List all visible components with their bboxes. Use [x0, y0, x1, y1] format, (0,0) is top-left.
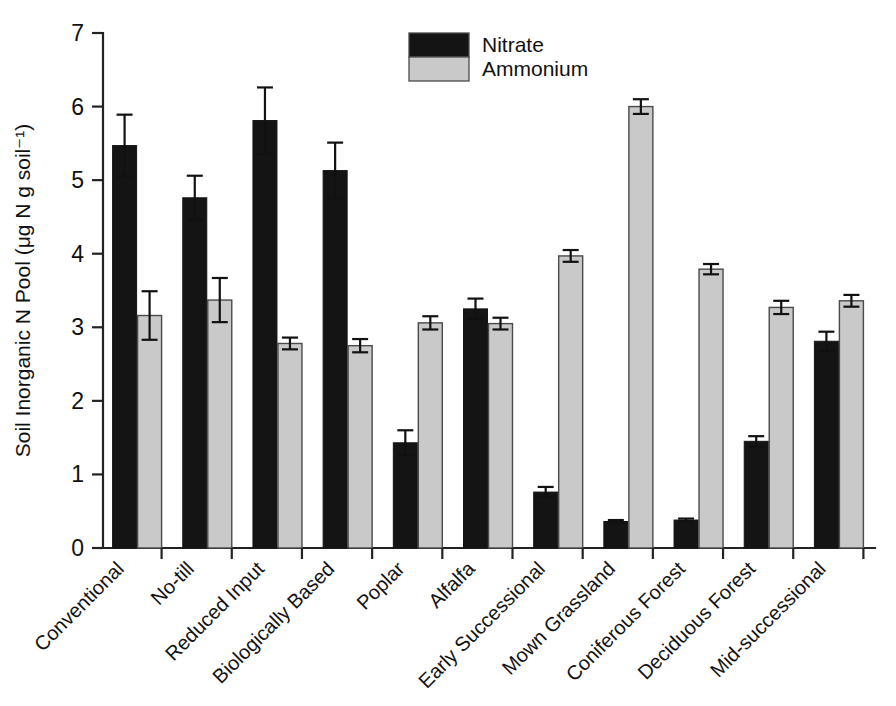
y-tick-label: 2	[71, 388, 84, 414]
bar[interactable]	[393, 443, 417, 548]
bar-group-ammonium	[769, 307, 793, 548]
bar-group-ammonium	[839, 301, 863, 548]
bar-group-nitrate	[323, 171, 347, 548]
legend-swatch-ammonium	[409, 57, 469, 81]
bar-group-nitrate	[534, 492, 558, 548]
bar-group-nitrate	[113, 146, 137, 548]
bar[interactable]	[814, 341, 838, 548]
y-tick-label: 7	[71, 20, 84, 46]
bar[interactable]	[744, 441, 768, 548]
bar-group-ammonium	[348, 346, 372, 548]
bar[interactable]	[418, 323, 442, 548]
bar-chart-figure: 01234567ConventionalNo-tillReduced Input…	[0, 0, 896, 706]
bar[interactable]	[253, 121, 277, 548]
x-axis-category-label: Conventional	[30, 557, 128, 655]
y-axis-title: Soil Inorganic N Pool (μg N g soil⁻¹)	[11, 124, 34, 458]
chart-canvas: 01234567ConventionalNo-tillReduced Input…	[0, 0, 896, 706]
bar[interactable]	[769, 307, 793, 548]
y-tick-label: 0	[71, 535, 84, 561]
x-axis-category-label: Early Successional	[414, 557, 549, 692]
bar-group-nitrate	[253, 121, 277, 548]
bar[interactable]	[323, 171, 347, 548]
bar-group-ammonium	[559, 256, 583, 548]
bar[interactable]	[464, 309, 488, 548]
y-tick-label: 4	[71, 241, 84, 267]
bar[interactable]	[699, 269, 723, 548]
bar-group-ammonium	[699, 269, 723, 548]
bar-group-ammonium	[278, 343, 302, 548]
bar[interactable]	[348, 346, 372, 548]
bar[interactable]	[629, 107, 653, 548]
bar-group-nitrate	[604, 522, 628, 548]
bar[interactable]	[113, 146, 137, 548]
x-axis-ticks	[162, 548, 864, 559]
x-axis-category-label: Alfalfa	[424, 557, 479, 612]
bar[interactable]	[208, 300, 232, 548]
x-axis-category-label: Poplar	[352, 557, 409, 614]
y-axis-ticks	[92, 33, 103, 548]
x-axis-category-label: Biologically Based	[208, 557, 338, 687]
bar-group-ammonium	[418, 323, 442, 548]
legend-swatch-nitrate	[409, 33, 469, 57]
bar[interactable]	[489, 324, 513, 548]
bar-group-nitrate	[814, 341, 838, 548]
bar-group-nitrate	[464, 309, 488, 548]
y-tick-label: 6	[71, 94, 84, 120]
bar-group-nitrate	[393, 443, 417, 548]
bar[interactable]	[604, 522, 628, 548]
bar-group-nitrate	[183, 198, 207, 548]
bar[interactable]	[278, 343, 302, 548]
bar[interactable]	[559, 256, 583, 548]
y-tick-label: 1	[71, 461, 84, 487]
bar[interactable]	[839, 301, 863, 548]
x-axis-category-label: Coniferous Forest	[561, 557, 689, 685]
bar-group-ammonium	[208, 300, 232, 548]
y-tick-label: 3	[71, 314, 84, 340]
bar-group-nitrate	[744, 441, 768, 548]
bar[interactable]	[138, 316, 162, 548]
legend-label-nitrate: Nitrate	[482, 33, 544, 56]
bar[interactable]	[183, 198, 207, 548]
bars-layer	[113, 107, 864, 548]
legend-label-ammonium: Ammonium	[482, 57, 588, 80]
legend: NitrateAmmonium	[409, 33, 588, 81]
bar[interactable]	[674, 520, 698, 548]
y-tick-label: 5	[71, 167, 84, 193]
x-axis-category-label: Deciduous Forest	[633, 557, 760, 684]
bar-group-nitrate	[674, 520, 698, 548]
bar-group-ammonium	[629, 107, 653, 548]
bar-group-ammonium	[138, 316, 162, 548]
x-axis-category-label: No-till	[146, 557, 198, 609]
bar-group-ammonium	[489, 324, 513, 548]
bar[interactable]	[534, 492, 558, 548]
